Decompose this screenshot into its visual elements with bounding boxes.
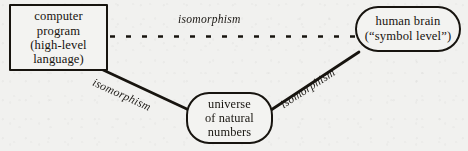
node-human-brain-line-1: human brain bbox=[376, 14, 441, 29]
node-natural-numbers: universe of natural numbers bbox=[186, 92, 273, 144]
isomorphism-diagram: computer program (high-level language) h… bbox=[0, 0, 468, 151]
node-computer-program-line-2: program bbox=[37, 24, 80, 38]
node-computer-program-line-4: language) bbox=[33, 52, 84, 66]
node-natural-numbers-line-1: universe bbox=[208, 97, 251, 111]
node-human-brain: human brain (“symbol level”) bbox=[355, 6, 461, 52]
node-natural-numbers-line-3: numbers bbox=[208, 125, 251, 139]
node-human-brain-line-2: (“symbol level”) bbox=[365, 29, 452, 44]
node-natural-numbers-line-2: of natural bbox=[205, 111, 254, 125]
node-computer-program: computer program (high-level language) bbox=[9, 4, 108, 71]
node-computer-program-line-3: (high-level bbox=[30, 38, 86, 52]
node-computer-program-line-1: computer bbox=[34, 9, 82, 23]
edge-label-program-to-brain: isomorphism bbox=[178, 13, 241, 26]
